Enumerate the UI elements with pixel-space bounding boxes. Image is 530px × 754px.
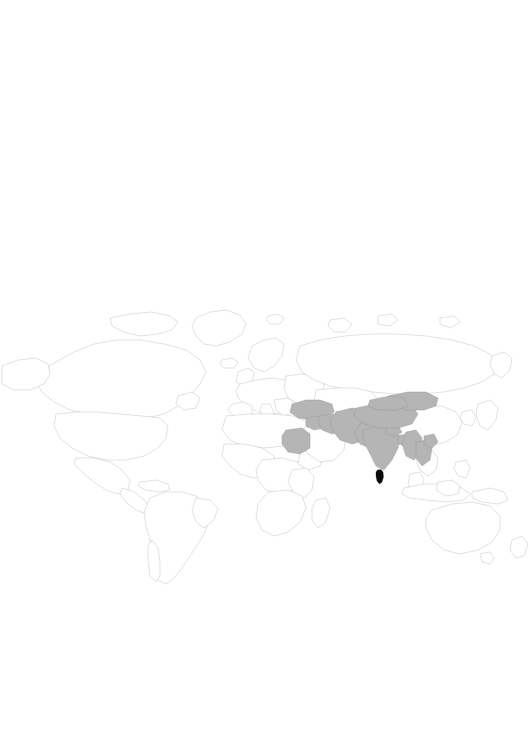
world-map-svg	[0, 0, 530, 754]
page-root	[0, 0, 530, 754]
world-map-container	[0, 0, 530, 754]
